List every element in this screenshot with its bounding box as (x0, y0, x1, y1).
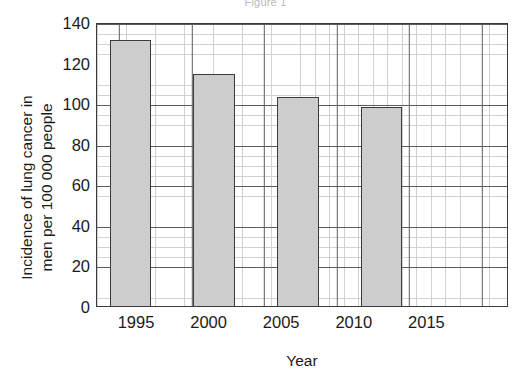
y-tick-label-140: 140 (50, 14, 90, 33)
bar-1995 (110, 40, 152, 306)
bar-2010 (361, 107, 403, 306)
x-tick-label-2000: 2000 (174, 313, 244, 332)
y-tick-label-0: 0 (50, 298, 90, 317)
y-axis-tick-labels: 0 20 40 60 80 100 120 140 (44, 0, 90, 378)
x-tick-label-2015: 2015 (391, 313, 461, 332)
plot-area (96, 23, 508, 307)
bar-2000 (193, 74, 235, 306)
y-axis-title-line-1: Incidence of lung cancer in (17, 40, 37, 336)
figure-root: Figure 1 Incidence of lung cancer in men… (0, 0, 531, 378)
y-tick-label-20: 20 (50, 257, 90, 276)
y-tick-label-60: 60 (50, 176, 90, 195)
bar-2005 (277, 97, 319, 306)
x-tick-label-2005: 2005 (246, 313, 316, 332)
y-tick-label-80: 80 (50, 135, 90, 154)
y-tick-label-120: 120 (50, 54, 90, 73)
y-tick-label-100: 100 (50, 95, 90, 114)
y-tick-label-40: 40 (50, 216, 90, 235)
x-axis-tick-labels: 1995 2000 2005 2010 2015 (96, 313, 508, 339)
x-tick-label-2010: 2010 (319, 313, 389, 332)
x-axis-title: Year (96, 352, 508, 370)
x-tick-label-1995: 1995 (101, 313, 171, 332)
